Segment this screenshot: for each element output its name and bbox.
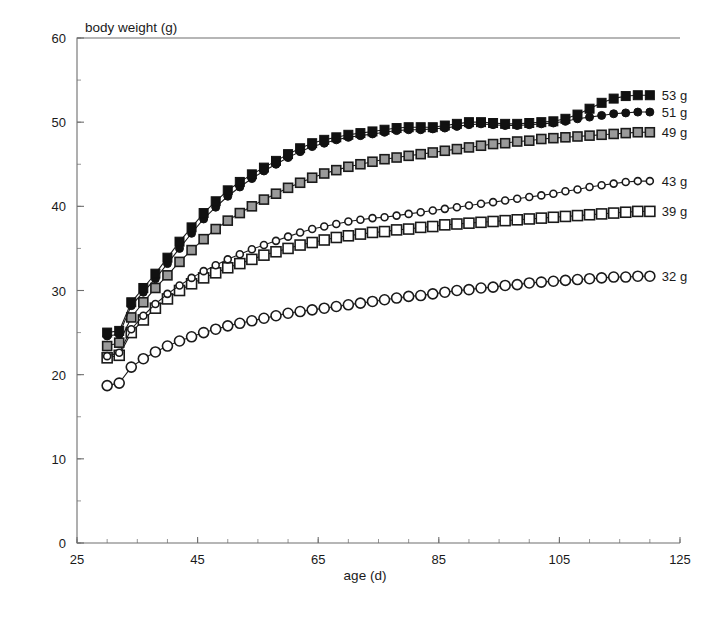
data-point-marker: [138, 354, 148, 364]
data-point-marker: [404, 123, 413, 132]
data-point-marker: [392, 124, 401, 133]
data-point-marker: [550, 190, 557, 197]
data-point-marker: [645, 206, 655, 216]
data-point-marker: [272, 237, 279, 244]
series-label-39-g: 39 g: [662, 204, 687, 219]
data-point-marker: [103, 328, 112, 337]
data-point-marker: [405, 210, 412, 217]
data-point-marker: [489, 140, 498, 149]
data-point-marker: [440, 220, 450, 230]
data-point-marker: [536, 213, 546, 223]
data-point-marker: [404, 224, 414, 234]
data-point-marker: [285, 233, 292, 240]
data-point-marker: [573, 132, 582, 141]
data-point-marker: [417, 209, 424, 216]
data-point-marker: [333, 221, 340, 228]
data-point-marker: [440, 287, 450, 297]
data-point-marker: [320, 135, 329, 144]
data-point-marker: [561, 133, 570, 142]
data-point-marker: [356, 129, 365, 138]
data-point-marker: [597, 98, 606, 107]
data-point-marker: [126, 362, 136, 372]
data-point-marker: [344, 162, 353, 171]
data-point-marker: [609, 272, 619, 282]
series-label-53-g: 53 g: [662, 88, 687, 103]
data-point-marker: [610, 180, 617, 187]
data-point-marker: [452, 145, 461, 154]
data-point-marker: [634, 178, 641, 185]
data-point-marker: [284, 183, 293, 192]
data-point-marker: [283, 308, 293, 318]
data-point-marker: [526, 194, 533, 201]
data-point-marker: [369, 215, 376, 222]
data-point-marker: [429, 207, 436, 214]
data-point-marker: [646, 108, 654, 116]
data-point-marker: [585, 274, 595, 284]
data-point-marker: [319, 235, 329, 245]
data-point-marker: [645, 128, 654, 137]
data-point-marker: [392, 293, 402, 303]
data-point-marker: [561, 114, 570, 123]
data-point-marker: [572, 211, 582, 221]
data-point-marker: [441, 205, 448, 212]
data-point-marker: [536, 277, 546, 287]
data-point-marker: [621, 272, 631, 282]
data-point-marker: [116, 349, 123, 356]
data-point-marker: [562, 188, 569, 195]
data-point-marker: [609, 129, 618, 138]
data-point-marker: [235, 209, 244, 218]
x-axis-title: age (d): [344, 568, 387, 583]
data-point-marker: [175, 336, 185, 346]
data-point-marker: [621, 207, 631, 217]
data-point-marker: [585, 210, 595, 220]
series-label-49-g: 49 g: [662, 125, 687, 140]
data-point-marker: [139, 283, 148, 292]
data-point-marker: [393, 212, 400, 219]
data-point-marker: [150, 347, 160, 357]
data-point-marker: [502, 197, 509, 204]
y-tick-label: 10: [52, 452, 66, 467]
data-point-marker: [223, 186, 232, 195]
data-point-marker: [247, 170, 256, 179]
data-point-marker: [271, 189, 280, 198]
data-point-marker: [478, 200, 485, 207]
data-point-marker: [634, 108, 642, 116]
data-point-marker: [440, 146, 449, 155]
data-point-marker: [162, 341, 172, 351]
data-point-marker: [452, 219, 462, 229]
data-point-marker: [296, 144, 305, 153]
data-point-marker: [331, 232, 341, 242]
data-point-marker: [622, 178, 629, 185]
data-point-marker: [259, 250, 269, 260]
data-point-marker: [416, 123, 425, 132]
data-point-marker: [247, 254, 257, 264]
data-point-marker: [212, 262, 219, 269]
data-point-marker: [465, 202, 472, 209]
data-point-marker: [295, 307, 305, 317]
data-point-marker: [211, 324, 221, 334]
data-point-marker: [476, 283, 486, 293]
data-point-marker: [284, 150, 293, 159]
y-tick-label: 0: [59, 536, 66, 551]
y-tick-label: 40: [52, 199, 66, 214]
series-label-32-g: 32 g: [662, 269, 687, 284]
data-point-marker: [633, 271, 643, 281]
data-point-marker: [176, 282, 183, 289]
data-point-marker: [164, 290, 171, 297]
data-point-marker: [416, 291, 426, 301]
data-point-marker: [573, 110, 582, 119]
series-label-43-g: 43 g: [662, 174, 687, 189]
data-point-marker: [127, 298, 136, 307]
data-point-marker: [549, 117, 558, 126]
data-point-marker: [200, 268, 207, 275]
data-point-marker: [211, 197, 220, 206]
data-point-marker: [560, 211, 570, 221]
data-point-marker: [476, 217, 486, 227]
data-point-marker: [319, 303, 329, 313]
body-weight-growth-chart: 25456585105125 0102030405060 53 g51 g49 …: [0, 0, 705, 617]
x-tick-label: 105: [549, 552, 571, 567]
data-point-marker: [104, 353, 111, 360]
data-point-marker: [296, 178, 305, 187]
data-point-marker: [597, 209, 607, 219]
data-point-marker: [344, 130, 353, 139]
